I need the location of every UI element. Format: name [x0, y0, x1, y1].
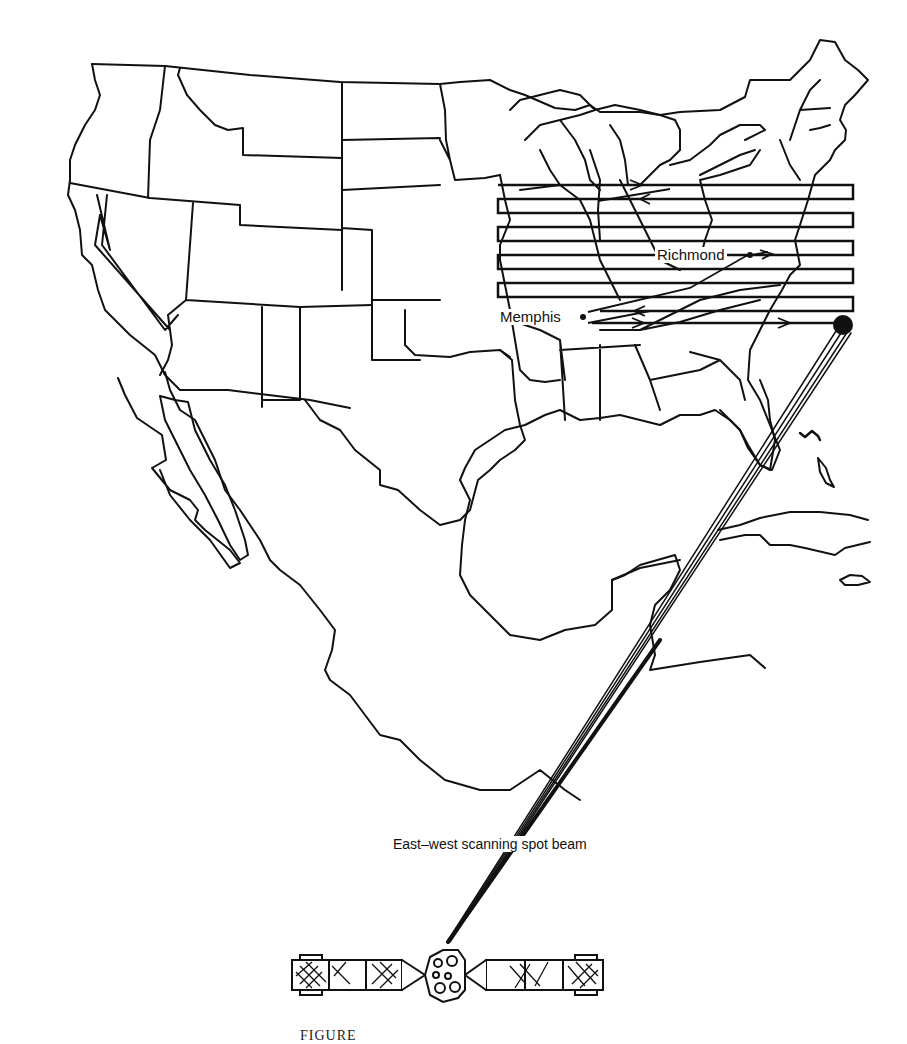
bahamas — [818, 458, 834, 487]
us-border — [92, 40, 868, 480]
texas — [305, 300, 525, 525]
map-outline — [68, 40, 870, 800]
beam-label: East–west scanning spot beam — [391, 836, 589, 852]
jamaica — [840, 575, 870, 585]
figure-caption: FIGURE — [300, 1028, 357, 1044]
memphis-dot — [580, 314, 586, 320]
cuba — [718, 512, 870, 555]
us-west-coast — [68, 64, 350, 408]
bahamas-small — [800, 431, 820, 440]
state-lines — [70, 66, 510, 407]
memphis-label: Memphis — [498, 309, 563, 325]
satellite-icon — [292, 950, 603, 1002]
gulf-coast — [460, 480, 680, 640]
mexico-outline — [118, 372, 580, 800]
richmond-label: Richmond — [655, 247, 727, 263]
richmond-dot — [747, 252, 753, 258]
